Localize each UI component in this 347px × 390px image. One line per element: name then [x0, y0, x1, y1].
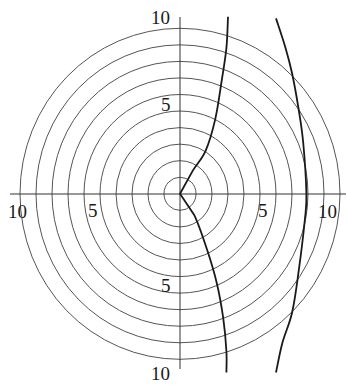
tick-label-left-10: 10 — [8, 201, 27, 222]
tick-label-right-5: 5 — [258, 200, 268, 221]
tick-label-top-5: 5 — [161, 94, 171, 115]
curves — [180, 17, 306, 373]
polar-chart: 5 10 5 10 5 10 5 10 — [0, 0, 347, 390]
tick-label-top-10: 10 — [151, 7, 170, 28]
tick-label-right-10: 10 — [318, 201, 337, 222]
tick-label-left-5: 5 — [88, 200, 98, 221]
outer-curve — [276, 18, 306, 372]
tick-label-bottom-10: 10 — [151, 363, 170, 384]
tick-label-bottom-5: 5 — [161, 275, 171, 296]
